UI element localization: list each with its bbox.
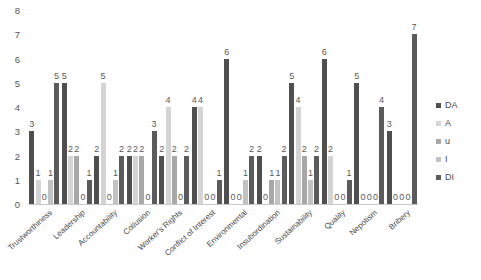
bar-a[interactable]: 5 xyxy=(101,10,106,204)
bar-di[interactable]: 3 xyxy=(152,10,157,204)
bar-a[interactable]: 1 xyxy=(36,10,41,204)
legend-item-u[interactable]: u xyxy=(436,132,480,150)
bar-di[interactable]: 2 xyxy=(184,10,189,204)
bar-da[interactable]: 6 xyxy=(322,10,327,204)
bar-di[interactable]: 2 xyxy=(119,10,124,204)
legend-label: DA xyxy=(445,101,458,110)
bar-u[interactable]: 0 xyxy=(237,10,242,204)
bar-da[interactable]: 2 xyxy=(127,10,132,204)
bar-rect[interactable] xyxy=(224,59,229,205)
bar-value-label: 2 xyxy=(139,145,144,154)
bar-da[interactable]: 5 xyxy=(62,10,67,204)
bar-value-label: 2 xyxy=(257,145,262,154)
bar-a[interactable]: 0 xyxy=(231,10,236,204)
bar-da[interactable]: 3 xyxy=(387,10,392,204)
bar-value-label: 1 xyxy=(269,169,274,178)
legend-swatch-icon xyxy=(436,157,441,162)
bar-a[interactable]: 4 xyxy=(296,10,301,204)
bar-value-label: 4 xyxy=(198,96,203,105)
bar-a[interactable]: 2 xyxy=(133,10,138,204)
bar-u[interactable]: 0 xyxy=(204,10,209,204)
bar-rect[interactable] xyxy=(119,156,124,205)
bar-i[interactable]: 1 xyxy=(113,10,118,204)
x-axis-labels: TrustworthinessLeadershipAccountabilityC… xyxy=(28,206,418,280)
y-axis-tick: 7 xyxy=(15,29,20,40)
bar-value-label: 1 xyxy=(48,169,53,178)
bar-rect[interactable] xyxy=(192,107,197,204)
bar-group: 22203 xyxy=(126,10,159,204)
legend-item-di[interactable]: DI xyxy=(436,168,480,186)
bar-a[interactable]: 0 xyxy=(361,10,366,204)
bar-da[interactable]: 3 xyxy=(29,10,34,204)
legend-item-a[interactable]: A xyxy=(436,114,480,132)
bar-value-label: 2 xyxy=(314,145,319,154)
bar-da[interactable]: 5 xyxy=(289,10,294,204)
y-axis-tick: 0 xyxy=(15,199,20,210)
bar-i[interactable]: 0 xyxy=(340,10,345,204)
bar-rect[interactable] xyxy=(289,83,294,204)
bar-a[interactable]: 0 xyxy=(263,10,268,204)
bar-di[interactable]: 5 xyxy=(54,10,59,204)
bar-i[interactable]: 1 xyxy=(48,10,53,204)
bar-a[interactable]: 4 xyxy=(166,10,171,204)
bar-da[interactable]: 2 xyxy=(94,10,99,204)
bar-group: 30007 xyxy=(386,10,419,204)
bar-a[interactable]: 0 xyxy=(393,10,398,204)
bar-a[interactable]: 2 xyxy=(68,10,73,204)
bar-u[interactable]: 1 xyxy=(269,10,274,204)
bar-value-label: 2 xyxy=(94,145,99,154)
bar-value-label: 0 xyxy=(367,193,372,202)
bar-u[interactable]: 0 xyxy=(399,10,404,204)
bar-value-label: 0 xyxy=(340,193,345,202)
bar-value-label: 5 xyxy=(54,72,59,81)
bar-u[interactable]: 2 xyxy=(74,10,79,204)
bar-da[interactable]: 6 xyxy=(224,10,229,204)
bar-i[interactable]: 0 xyxy=(373,10,378,204)
legend-item-da[interactable]: DA xyxy=(436,96,480,114)
bar-di[interactable]: 1 xyxy=(347,10,352,204)
bar-da[interactable]: 5 xyxy=(354,10,359,204)
bar-rect[interactable] xyxy=(113,180,118,204)
bar-rect[interactable] xyxy=(172,156,177,205)
bar-rect[interactable] xyxy=(152,131,157,204)
bar-rect[interactable] xyxy=(184,156,189,205)
bar-rect[interactable] xyxy=(36,180,41,204)
bar-value-label: 2 xyxy=(119,145,124,154)
bar-rect[interactable] xyxy=(62,83,67,204)
bar-value-label: 6 xyxy=(224,48,229,57)
bar-rect[interactable] xyxy=(379,107,384,204)
y-axis-tick: 5 xyxy=(15,77,20,88)
bar-i[interactable]: 0 xyxy=(178,10,183,204)
bar-u[interactable]: 0 xyxy=(334,10,339,204)
bar-group: 24202 xyxy=(158,10,191,204)
bar-u[interactable]: 0 xyxy=(367,10,372,204)
y-axis-tick: 8 xyxy=(15,5,20,16)
bar-a[interactable]: 2 xyxy=(328,10,333,204)
bar-u[interactable]: 2 xyxy=(139,10,144,204)
bar-da[interactable]: 2 xyxy=(159,10,164,204)
bar-di[interactable]: 4 xyxy=(379,10,384,204)
bar-value-label: 7 xyxy=(412,23,417,32)
legend-item-i[interactable]: I xyxy=(436,150,480,168)
bar-u[interactable]: 2 xyxy=(172,10,177,204)
bar-value-label: 2 xyxy=(328,145,333,154)
chart-legend: DAAuIDI xyxy=(436,96,480,186)
bar-di[interactable]: 7 xyxy=(412,10,417,204)
bar-rect[interactable] xyxy=(29,131,34,204)
bar-da[interactable]: 4 xyxy=(192,10,197,204)
bar-value-label: 2 xyxy=(172,145,177,154)
bar-value-label: 5 xyxy=(62,72,67,81)
bar-u[interactable]: 0 xyxy=(107,10,112,204)
bar-rect[interactable] xyxy=(322,59,327,205)
bar-i[interactable]: 0 xyxy=(405,10,410,204)
bar-rect[interactable] xyxy=(412,34,417,204)
bar-rect[interactable] xyxy=(48,180,53,204)
bar-a[interactable]: 4 xyxy=(198,10,203,204)
bar-chart: 012345678 310155220125012222032420244001… xyxy=(0,0,481,280)
bar-u[interactable]: 0 xyxy=(42,10,47,204)
bar-rect[interactable] xyxy=(54,83,59,204)
bar-rect[interactable] xyxy=(354,83,359,204)
bar-value-label: 0 xyxy=(373,193,378,202)
bar-u[interactable]: 2 xyxy=(302,10,307,204)
bar-value-label: 0 xyxy=(80,193,85,202)
